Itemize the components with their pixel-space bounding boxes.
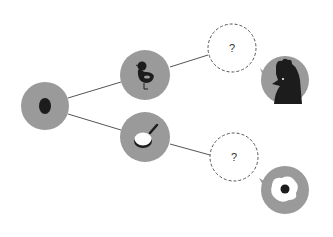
- question-mark-top: ?: [222, 38, 242, 58]
- fried-egg-icon: [271, 177, 298, 202]
- edge-egg-pan: [68, 114, 121, 130]
- question-mark-bottom: ?: [224, 147, 244, 167]
- node-pan: [120, 112, 170, 162]
- node-egg: [21, 82, 69, 130]
- edge-chick-unknown-top: [170, 55, 208, 67]
- edge-egg-chick: [68, 82, 121, 98]
- node-chick: [120, 50, 170, 100]
- edge-pan-unknown-bottom: [170, 144, 210, 155]
- node-fried-egg: [259, 166, 309, 214]
- node-chicken: [260, 56, 309, 104]
- egg-icon: [39, 98, 51, 114]
- diagram-canvas: [0, 0, 333, 237]
